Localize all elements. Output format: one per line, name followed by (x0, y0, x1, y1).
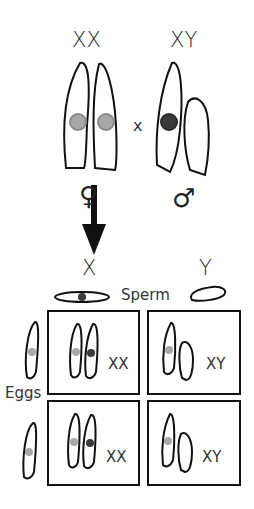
male-y-chromosome (184, 99, 208, 175)
maternal-allele-dot (164, 437, 172, 445)
sperm-x-label: X (82, 258, 96, 279)
sperm-y-label: Y (199, 258, 212, 279)
paternal-allele-dot (87, 349, 95, 357)
maternal-allele-dot (165, 346, 173, 354)
eggs-label: Eggs (5, 386, 41, 401)
sperm-label: Sperm (121, 288, 170, 303)
arrow-down-icon (82, 224, 106, 255)
male-symbol-icon: ♂ (172, 185, 195, 211)
egg-allele-dot (25, 448, 33, 456)
cross-symbol: x (133, 118, 142, 134)
offspring-genotype-r1c2: XY (206, 357, 225, 372)
offspring-genotype-r2c2: XY (202, 450, 221, 465)
sperm-x-allele-dot (78, 293, 86, 301)
male-genotype-label: XY (170, 30, 197, 51)
sperm-y-chromosome (191, 287, 225, 301)
maternal-allele-dot (70, 438, 78, 446)
offspring-box-r1c2 (148, 311, 240, 394)
punnett-diagram (0, 0, 254, 509)
offspring-genotype-r2c1: XX (106, 450, 127, 465)
paternal-allele-dot (86, 439, 94, 447)
maternal-allele-dot (98, 114, 114, 130)
female-genotype-label: XX (72, 30, 101, 51)
paternal-allele-dot (161, 114, 177, 130)
egg-allele-dot (28, 348, 36, 356)
offspring-genotype-r1c1: XX (108, 357, 129, 372)
female-symbol-icon: ♀ (79, 183, 98, 209)
maternal-allele-dot (70, 114, 86, 130)
maternal-allele-dot (72, 348, 80, 356)
